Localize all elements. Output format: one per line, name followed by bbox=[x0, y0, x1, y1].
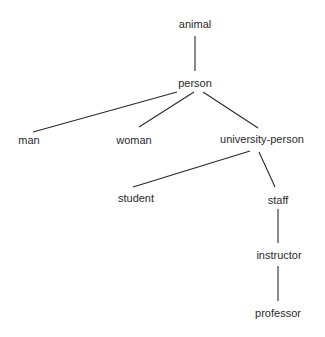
node-man: man bbox=[18, 135, 39, 146]
node-instructor: instructor bbox=[256, 250, 301, 261]
edge-person-woman bbox=[139, 92, 194, 127]
node-student: student bbox=[118, 193, 154, 204]
node-staff: staff bbox=[268, 195, 289, 206]
node-university-person: university-person bbox=[220, 134, 304, 145]
edge-university-person-staff bbox=[259, 152, 275, 187]
edge-university-person-student bbox=[133, 151, 250, 187]
node-professor: professor bbox=[255, 308, 301, 319]
tree-edges bbox=[0, 0, 325, 337]
edge-person-university-person bbox=[203, 92, 258, 128]
edge-person-man bbox=[33, 92, 177, 132]
node-person: person bbox=[178, 78, 212, 89]
node-animal: animal bbox=[179, 19, 211, 30]
node-woman: woman bbox=[116, 135, 151, 146]
